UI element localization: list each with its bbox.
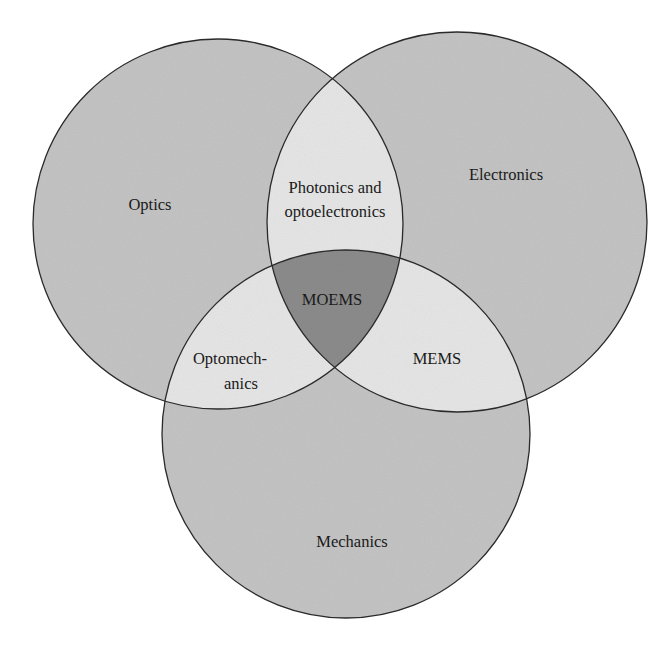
- label-photonics-line2: optoelectronics: [285, 202, 386, 221]
- label-moems: MOEMS: [302, 290, 363, 309]
- venn-diagram: Optics Electronics Mechanics Photonics a…: [0, 0, 672, 648]
- label-electronics: Electronics: [469, 165, 543, 184]
- label-optomechanics-line1: Optomech-: [193, 349, 267, 368]
- label-optics: Optics: [128, 195, 171, 214]
- label-photonics-line1: Photonics and: [288, 178, 382, 197]
- label-mems: MEMS: [413, 349, 462, 368]
- label-mechanics: Mechanics: [316, 532, 387, 551]
- label-optomechanics-line2: anics: [224, 374, 258, 393]
